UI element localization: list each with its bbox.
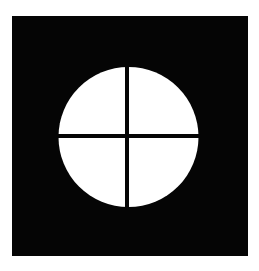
quartered-circle-icon [0,0,259,271]
horizontal-divider [57,134,201,138]
